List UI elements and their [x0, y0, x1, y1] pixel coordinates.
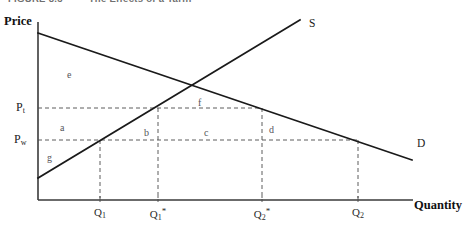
quantity-label-q2star: Q2*	[249, 206, 275, 222]
price-label-pt: Pt	[16, 100, 25, 115]
quantity-label-q1: Q1	[88, 206, 112, 220]
quantity-label-q2-base: Q	[352, 206, 360, 218]
region-label-c: c	[204, 127, 208, 138]
region-label-d: d	[269, 124, 274, 135]
region-label-e: e	[67, 69, 71, 80]
supply-curve-label: S	[309, 17, 315, 29]
quantity-label-q1star-base: Q	[150, 208, 158, 220]
quantity-label-q1-sub: 1	[102, 211, 106, 220]
quantity-label-q1-base: Q	[94, 206, 102, 218]
region-label-a: a	[60, 122, 64, 133]
region-label-f: f	[198, 97, 201, 108]
price-label-pw-base: P	[14, 132, 21, 146]
demand-curve	[38, 33, 412, 160]
quantity-label-q1star: Q1*	[145, 206, 171, 222]
quantity-label-q1star-sup: *	[162, 206, 167, 216]
price-label-pw: Pw	[14, 132, 26, 147]
demand-curve-label: D	[417, 137, 425, 149]
price-label-pt-base: P	[16, 100, 23, 114]
region-label-b: b	[144, 127, 149, 138]
quantity-label-q2star-sup: *	[266, 206, 271, 216]
supply-curve	[38, 20, 300, 178]
price-label-pw-sub: w	[21, 138, 27, 147]
price-label-pt-sub: t	[23, 106, 25, 115]
quantity-label-q2-sub: 2	[360, 211, 364, 220]
region-label-g: g	[47, 152, 52, 163]
plot-area	[0, 0, 473, 231]
figure-container: FIGURE 8.3The Effects of a Tariff Price …	[0, 0, 473, 231]
quantity-label-q2: Q2	[346, 206, 370, 220]
quantity-label-q2star-base: Q	[254, 208, 262, 220]
